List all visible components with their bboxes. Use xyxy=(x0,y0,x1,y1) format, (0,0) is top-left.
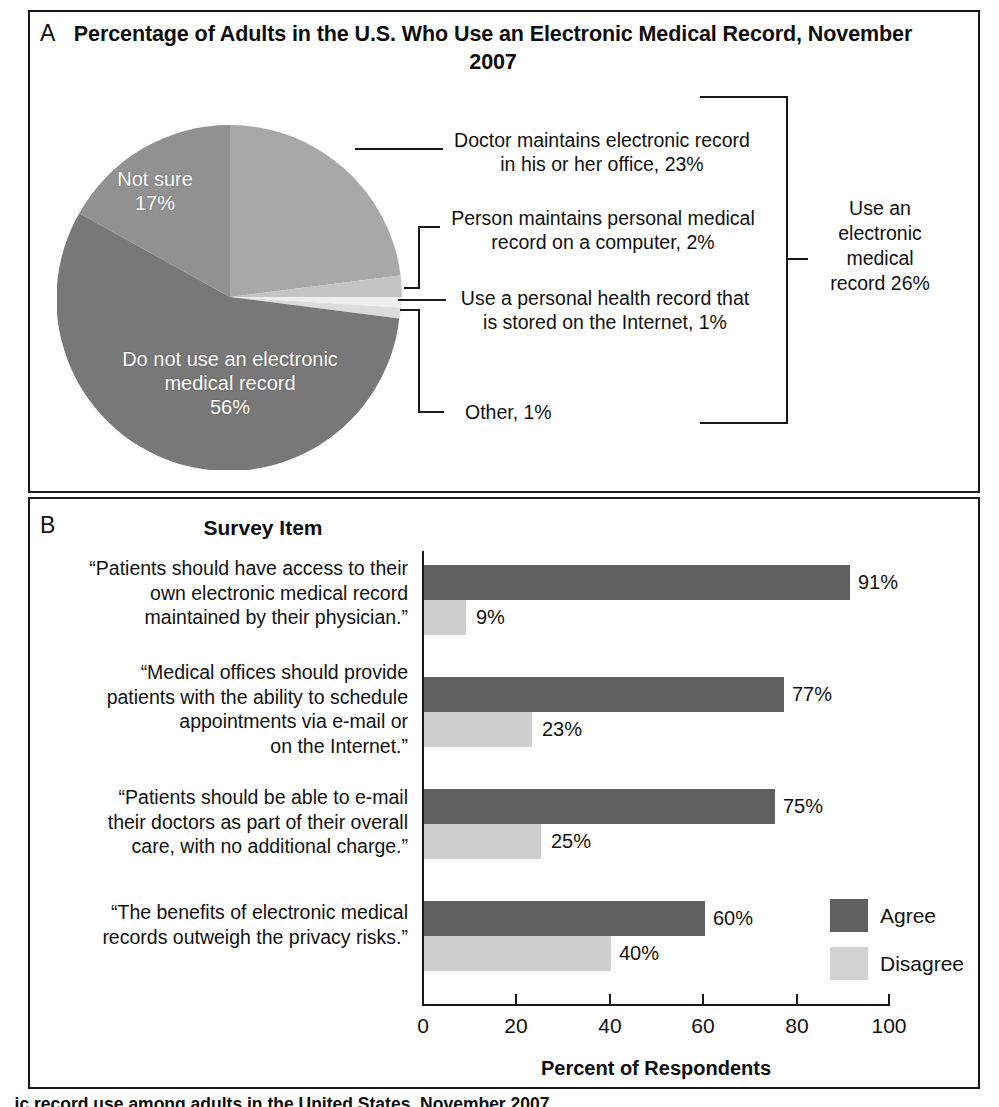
bar-agree-3 xyxy=(424,901,705,936)
bar-value-disagree-0: 9% xyxy=(476,600,505,635)
legend-label-disagree: Disagree xyxy=(880,947,964,980)
leader-bracket-person-stem xyxy=(418,226,420,288)
pie-slice-doctor xyxy=(230,125,401,297)
leader-line-internet xyxy=(398,299,446,301)
legend-label-agree: Agree xyxy=(880,899,936,932)
x-tick-label-20: 20 xyxy=(486,1015,546,1036)
bar-value-agree-2: 75% xyxy=(783,789,823,824)
x-tick-80 xyxy=(796,994,798,1005)
bar-value-agree-0: 91% xyxy=(858,565,898,600)
x-tick-label-40: 40 xyxy=(580,1015,640,1036)
bar-agree-1 xyxy=(424,677,784,712)
x-axis-line xyxy=(422,1004,890,1006)
callout-summary-use-emr: Use an electronic medical record 26% xyxy=(806,196,954,296)
pie-label-do-not-use: Do not use an electronic medical record … xyxy=(85,347,375,419)
x-tick-label-60: 60 xyxy=(673,1015,733,1036)
bar-value-disagree-2: 25% xyxy=(551,824,591,859)
bar-agree-0 xyxy=(424,565,850,600)
x-tick-0 xyxy=(422,994,424,1005)
leader-bracket-person-point xyxy=(404,287,420,289)
x-tick-label-80: 80 xyxy=(767,1015,827,1036)
bar-value-agree-1: 77% xyxy=(792,677,832,712)
bar-value-disagree-1: 23% xyxy=(542,712,582,747)
summary-brace-top xyxy=(700,96,788,98)
bar-disagree-3 xyxy=(424,936,611,971)
summary-brace-point xyxy=(786,258,808,260)
bar-agree-2 xyxy=(424,789,775,824)
callout-person: Person maintains personal medical record… xyxy=(448,206,758,255)
callout-internet: Use a personal health record that is sto… xyxy=(452,286,758,335)
bar-disagree-1 xyxy=(424,712,532,747)
panel-a-title: Percentage of Adults in the U.S. Who Use… xyxy=(62,20,924,77)
leader-bracket-person-top xyxy=(418,226,440,228)
x-tick-100 xyxy=(888,994,890,1005)
x-tick-label-100: 100 xyxy=(859,1015,919,1036)
bar-item-label-3: “The benefits of electronic medical reco… xyxy=(40,900,408,949)
x-axis-title: Percent of Respondents xyxy=(422,1057,890,1080)
pie-label-not-sure: Not sure 17% xyxy=(80,167,230,215)
x-tick-label-0: 0 xyxy=(393,1015,453,1036)
bar-item-label-2: “Patients should be able to e-mail their… xyxy=(40,785,408,859)
legend-swatch-disagree xyxy=(830,947,868,980)
x-tick-40 xyxy=(609,994,611,1005)
panel-a-letter: A xyxy=(40,22,55,45)
figure-root: A Percentage of Adults in the U.S. Who U… xyxy=(0,0,999,1107)
callout-doctor: Doctor maintains electronic record in hi… xyxy=(452,128,752,177)
bar-item-label-0: “Patients should have access to their ow… xyxy=(40,556,408,630)
figure-caption: ...ic record use among adults in the Uni… xyxy=(0,1093,640,1107)
leader-bracket-other-bottom xyxy=(418,411,444,413)
callout-other: Other, 1% xyxy=(465,400,645,424)
leader-bracket-other-stem xyxy=(418,309,420,413)
bar-item-label-1: “Medical offices should provide patients… xyxy=(40,660,408,758)
bar-disagree-2 xyxy=(424,824,541,859)
bar-value-agree-3: 60% xyxy=(713,901,753,936)
bar-disagree-0 xyxy=(424,600,466,635)
x-tick-20 xyxy=(515,994,517,1005)
leader-line-doctor xyxy=(355,148,443,150)
legend-swatch-agree xyxy=(830,899,868,932)
bar-value-disagree-3: 40% xyxy=(619,936,659,971)
summary-brace-bottom xyxy=(700,422,788,424)
summary-brace-stem xyxy=(786,96,788,424)
leader-bracket-other-point xyxy=(400,309,420,311)
bar-plot-area: 91% 9% 77% 23% 75% 25% 60% 40% 0 20 40 6… xyxy=(422,551,890,1021)
panel-b-letter: B xyxy=(40,514,55,537)
survey-item-column-header: Survey Item xyxy=(118,516,408,540)
x-tick-60 xyxy=(702,994,704,1005)
